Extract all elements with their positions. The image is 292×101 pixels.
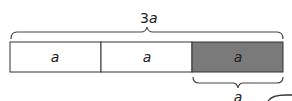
bar-model-diagram: 3a a a a a <box>0 0 292 101</box>
top-brace <box>11 27 283 39</box>
segment-2-label: a <box>143 49 152 65</box>
partial-curve <box>268 95 292 101</box>
total-label: 3a <box>140 10 158 26</box>
bottom-brace <box>193 77 283 88</box>
segment-1-label: a <box>51 49 60 65</box>
segment-3-label: a <box>234 49 243 65</box>
bottom-brace-label: a <box>234 89 243 101</box>
